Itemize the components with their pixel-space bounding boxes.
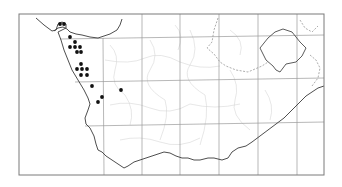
occurrence-dot — [75, 50, 79, 54]
occurrence-dot — [79, 73, 83, 77]
occurrence-dot — [90, 84, 94, 88]
occurrence-dot — [85, 73, 89, 77]
occurrence-points — [58, 22, 123, 104]
occurrence-dot — [73, 45, 77, 49]
occurrence-dot — [68, 35, 72, 39]
occurrence-dot — [100, 95, 104, 99]
map-frame — [19, 14, 324, 175]
occurrence-dot — [58, 22, 62, 26]
occurrence-dot — [75, 67, 79, 71]
distribution-map — [0, 0, 342, 187]
occurrence-dot — [78, 45, 82, 49]
occurrence-dot — [80, 67, 84, 71]
occurrence-dot — [68, 45, 72, 49]
occurrence-dot — [79, 62, 83, 66]
occurrence-dot — [79, 50, 83, 54]
occurrence-dot — [73, 40, 77, 44]
occurrence-dot — [85, 67, 89, 71]
occurrence-dot — [119, 88, 123, 92]
occurrence-dot — [96, 100, 100, 104]
dashed-provincial-boundary — [207, 18, 320, 86]
occurrence-dot — [62, 22, 66, 26]
minor-boundaries — [105, 25, 272, 145]
